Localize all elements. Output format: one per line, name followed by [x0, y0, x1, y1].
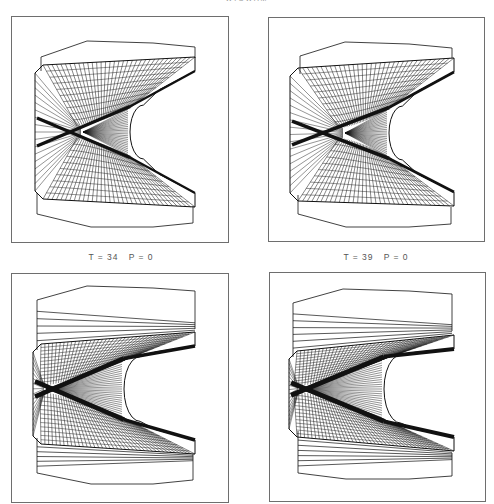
mesh-panel-3 [11, 273, 229, 503]
mesh-panel-1 [11, 16, 229, 243]
mesh-panel-4 [269, 272, 486, 502]
figure-header: WIGWAM [0, 0, 494, 2]
caption-panel-2: T = 39 P = 0 [343, 252, 408, 262]
mesh-drawing [12, 17, 230, 244]
mesh-drawing [12, 274, 230, 504]
mesh-panel-2 [268, 17, 485, 242]
caption-panel-1: T = 34 P = 0 [88, 252, 153, 262]
mesh-drawing [269, 18, 486, 243]
mesh-drawing [270, 273, 487, 503]
